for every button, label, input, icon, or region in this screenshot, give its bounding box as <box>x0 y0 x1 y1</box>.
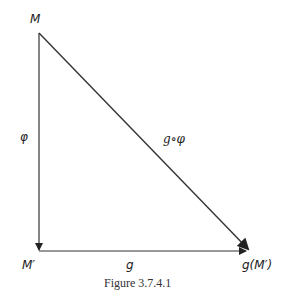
node-M-prime: M′ <box>22 258 35 272</box>
commutative-diagram <box>0 0 291 300</box>
figure-caption: Figure 3.7.4.1 <box>104 276 171 291</box>
node-g-M-prime: g(M′) <box>242 258 272 272</box>
label-g: g <box>126 258 134 272</box>
node-M: M <box>30 12 40 26</box>
label-phi: φ <box>20 130 28 144</box>
label-g-compose-phi: g∘φ <box>163 132 185 146</box>
arrow-g-compose-phi <box>39 33 248 249</box>
